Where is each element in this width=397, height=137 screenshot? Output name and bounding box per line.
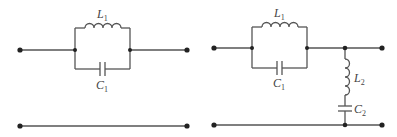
- right-shunt-node-top: [343, 46, 348, 51]
- right-tank-node-b: [305, 46, 309, 50]
- left-tank-node-b: [128, 48, 132, 52]
- left-capacitor-c1-icon: [100, 62, 105, 76]
- left-circuit: L1 C1: [17, 7, 189, 129]
- right-input-terminal: [211, 45, 216, 50]
- left-return-terminal-out: [184, 123, 189, 128]
- right-inductor-l2-icon: [345, 59, 350, 95]
- left-tank-node-a: [73, 48, 77, 52]
- right-shunt-node-bottom: [343, 123, 348, 128]
- right-capacitor-c1-icon: [277, 61, 282, 75]
- circuit-diagram: L1 C1: [0, 0, 397, 137]
- right-inductor-l1-icon: [262, 23, 298, 28]
- right-circuit: L1 C1 L2 C2: [211, 6, 384, 128]
- right-output-terminal: [379, 45, 384, 50]
- right-c1-label: C1: [273, 76, 285, 92]
- right-capacitor-c2-icon: [338, 106, 352, 111]
- right-return-terminal-in: [211, 122, 216, 127]
- right-l2-label: L2: [353, 71, 365, 87]
- left-inductor-l1-icon: [85, 24, 121, 29]
- left-return-terminal-in: [17, 123, 22, 128]
- right-c2-label: C2: [354, 102, 366, 118]
- left-l1-label: L1: [96, 7, 108, 23]
- left-output-terminal: [184, 47, 189, 52]
- left-input-terminal: [17, 47, 22, 52]
- right-tank-node-a: [250, 46, 254, 50]
- right-l1-label: L1: [273, 6, 285, 22]
- left-c1-label: C1: [96, 78, 108, 94]
- right-return-terminal-out: [379, 122, 384, 127]
